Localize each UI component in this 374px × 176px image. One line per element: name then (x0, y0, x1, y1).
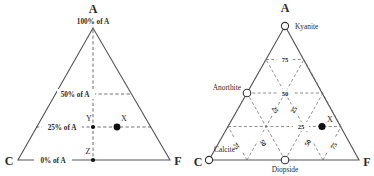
grid-label-group-d50b: 50 (256, 134, 272, 152)
left-ternary-diagram: A C F 100% of A 50% of A 25% of A 0% of … (0, 0, 187, 176)
contour-label-50: 50% of A (61, 91, 91, 99)
vertex-label-f: F (363, 155, 370, 169)
vertex-label-f: F (174, 154, 181, 168)
right-ternary-diagram: A C F 75 50 25 25 50 75 (187, 0, 374, 176)
point-x-label: X (327, 115, 333, 124)
vertex-label-a: A (89, 2, 98, 16)
contour-label-25: 25% of A (48, 124, 78, 132)
mineral-marker-diopside (281, 156, 289, 164)
left-diagram-svg: A C F 100% of A 50% of A 25% of A 0% of … (0, 0, 187, 176)
vertex-label-c: C (5, 154, 14, 168)
mineral-marker-kyanite (281, 22, 288, 29)
point-z-marker (91, 158, 95, 162)
grid-label-horizontal-25: 25 (298, 123, 305, 130)
grid-label-group-d50a: 50 (300, 134, 316, 152)
grid-label-group-d75a: 75 (326, 137, 342, 155)
vertex-label-a: A (281, 1, 290, 15)
grid-label-group-d25a: 25 (286, 101, 302, 119)
right-diagram-svg: A C F 75 50 25 25 50 75 (187, 0, 374, 176)
point-y-label: Y (86, 114, 92, 123)
mineral-marker-anorthite (243, 89, 251, 97)
mineral-label-kyanite: Kyanite (295, 22, 319, 31)
point-x-label: X (121, 114, 127, 123)
figure-root: A C F 100% of A 50% of A 25% of A 0% of … (0, 0, 374, 176)
contour-label-100: 100% of A (77, 18, 110, 26)
point-x-marker (318, 123, 325, 130)
point-y-marker (91, 125, 95, 129)
mineral-label-diopside: Diopside (272, 165, 299, 174)
contour-label-0: 0% of A (40, 157, 66, 165)
point-x-marker (114, 124, 121, 131)
vertex-label-c: C (194, 155, 203, 169)
point-z-label: Z (86, 147, 91, 156)
grid-label-horizontal-75: 75 (282, 56, 289, 63)
mineral-label-anorthite: Anorthite (213, 83, 242, 92)
mineral-label-calcite: Calcite (214, 145, 236, 154)
grid-label-group-d25b: 25 (268, 101, 284, 119)
mineral-marker-calcite (205, 156, 212, 163)
grid-label-horizontal-50: 50 (282, 90, 289, 97)
